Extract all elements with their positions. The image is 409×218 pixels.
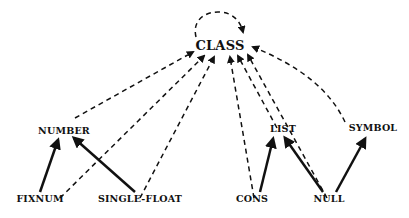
edge-symbol-class [253, 47, 345, 122]
edge-singlefloat-number [74, 138, 135, 192]
node-symbol: SYMBOL [349, 122, 398, 133]
edge-cons-list [260, 139, 273, 192]
subclass-of-edges [40, 138, 365, 192]
node-list: LIST [270, 123, 296, 134]
diagram-canvas [0, 0, 409, 218]
node-cons: CONS [236, 193, 268, 204]
edge-list-class [238, 56, 277, 128]
node-null: NULL [313, 193, 344, 204]
edge-null-list [285, 138, 323, 192]
node-single-float: SINGLE-FLOAT [98, 193, 182, 204]
node-class: CLASS [195, 38, 244, 53]
edge-null-symbol [336, 139, 365, 192]
edge-class-self [195, 12, 243, 37]
edge-fixnum-number [40, 140, 58, 192]
edge-singlefloat-class [140, 57, 214, 198]
node-fixnum: FIXNUM [16, 193, 63, 204]
edge-number-class [75, 52, 193, 118]
node-number: NUMBER [38, 125, 90, 136]
